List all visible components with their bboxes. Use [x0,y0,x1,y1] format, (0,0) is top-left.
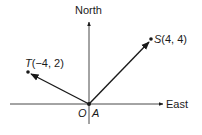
point-t-coords: (−4, 2) [32,57,64,69]
point-t-label: T(−4, 2) [25,58,64,69]
point-s-label: S(4, 4) [154,34,187,45]
point-t-name: T [25,57,32,69]
vector-at [31,74,89,104]
vector-diagram: North East O A S(4, 4) T(−4, 2) [0,0,202,135]
east-label: East [166,99,188,110]
origin-point [87,102,91,106]
point-t [26,70,30,74]
origin-a-label: A [92,108,99,119]
origin-o-label: O [78,108,87,119]
point-s [149,37,153,41]
north-label: North [75,5,102,16]
point-s-coords: (4, 4) [161,33,187,45]
vector-as [89,42,149,104]
